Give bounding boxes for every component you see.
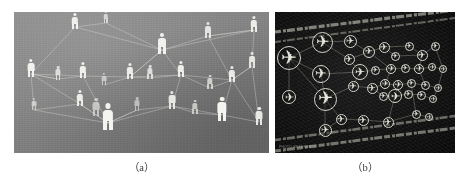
person-icon <box>158 33 167 54</box>
airplane-icon: ✈ <box>412 110 421 119</box>
person-icon <box>147 65 153 79</box>
airplane-icon: ✈ <box>344 35 357 48</box>
airplane-glyph: ✈ <box>314 88 337 111</box>
panel-a-edge <box>108 106 172 123</box>
airplane-icon: ✈ <box>386 64 396 74</box>
airplane-glyph: ✈ <box>412 110 421 119</box>
person-leg-left <box>251 26 253 32</box>
person-icon <box>255 107 263 126</box>
person-icon <box>178 61 185 78</box>
person-icon <box>102 103 113 130</box>
airplane-icon: ✈ <box>383 117 394 128</box>
airplane-icon: ✈ <box>379 92 388 101</box>
person-icon <box>217 97 227 122</box>
airplane-icon: ✈ <box>428 63 436 71</box>
person-leg-right <box>97 109 100 116</box>
airplane-icon: ✈ <box>429 95 437 103</box>
person-icon <box>127 63 134 80</box>
caption-b: （b） <box>275 159 455 174</box>
person-leg-left <box>207 84 209 89</box>
person-icon <box>72 13 79 30</box>
airplane-icon: ✈ <box>388 89 402 103</box>
airplane-glyph: ✈ <box>428 63 436 71</box>
airplane-icon: ✈ <box>379 42 390 53</box>
airplane-icon: ✈ <box>434 84 442 92</box>
person-leg-left <box>104 18 106 22</box>
person-icon <box>251 16 258 33</box>
person-head <box>179 61 182 64</box>
airplane-glyph: ✈ <box>379 92 388 101</box>
person-leg-left <box>56 75 58 80</box>
airplane-icon: ✈ <box>312 32 333 53</box>
airplane-icon: ✈ <box>363 46 375 58</box>
panel-a-edge <box>162 36 208 50</box>
person-icon <box>168 91 175 109</box>
person-head <box>220 97 225 102</box>
panel-a-edge <box>222 115 259 122</box>
person-leg-left <box>93 109 96 116</box>
person-leg-right <box>32 70 35 77</box>
airplane-glyph: ✈ <box>431 42 440 51</box>
person-leg-left <box>256 118 259 125</box>
person-leg-right <box>76 23 78 29</box>
person-leg-right <box>233 76 235 82</box>
airplane-icon: ✈ <box>282 90 296 104</box>
person-head <box>206 22 209 25</box>
airplane-glyph: ✈ <box>405 42 414 51</box>
person-leg-left <box>127 73 129 79</box>
person-leg-left <box>169 102 172 109</box>
person-icon <box>31 98 36 111</box>
person-leg-right <box>211 84 213 89</box>
airplane-glyph: ✈ <box>429 95 437 103</box>
person-head <box>149 65 152 68</box>
person-head <box>252 16 255 19</box>
caption-a: （a） <box>14 159 269 174</box>
airplane-glyph: ✈ <box>363 46 375 58</box>
person-head <box>160 33 164 37</box>
person-leg-left <box>135 106 137 111</box>
airplane-icon: ✈ <box>358 115 369 126</box>
person-leg-left <box>102 81 104 86</box>
person-icon <box>55 66 61 80</box>
airplane-icon: ✈ <box>391 52 400 61</box>
person-leg-right <box>196 109 198 114</box>
person-head <box>81 62 84 65</box>
person-leg-right <box>255 26 257 32</box>
person-leg-right <box>35 106 37 111</box>
airplane-glyph: ✈ <box>425 113 433 121</box>
panel-a-edge <box>75 23 106 27</box>
person-head <box>78 90 81 93</box>
person-head <box>128 63 131 66</box>
person-head <box>257 107 261 111</box>
person-leg-left <box>229 76 231 82</box>
airplane-icon: ✈ <box>401 64 410 73</box>
person-head <box>170 91 173 94</box>
airplane-icon: ✈ <box>407 79 416 88</box>
panel-a-edge <box>31 27 75 74</box>
panel-b-air-route-network: ✈✈✈✈✈✈✈✈✈✈✈✈✈✈✈✈✈✈✈✈✈✈✈✈✈✈✈✈✈✈✈✈✈✈✈✈✈✈ P… <box>275 12 455 153</box>
person-leg-right <box>131 73 133 79</box>
airplane-icon: ✈ <box>417 91 426 100</box>
person-leg-left <box>80 72 82 78</box>
airplane-icon: ✈ <box>336 114 347 125</box>
person-leg-right <box>84 72 86 78</box>
person-leg-right <box>151 74 153 79</box>
person-leg-left <box>28 70 31 77</box>
person-icon <box>80 62 87 79</box>
person-icon <box>134 97 140 111</box>
panel-a-edge <box>106 23 162 50</box>
airplane-glyph: ✈ <box>336 114 347 125</box>
airplane-icon: ✈ <box>277 46 301 70</box>
person-leg-left <box>205 32 207 38</box>
person-leg-left <box>158 47 161 55</box>
airplane-glyph: ✈ <box>417 50 428 61</box>
person-leg-right <box>209 32 211 38</box>
person-leg-left <box>218 112 221 121</box>
person-leg-right <box>109 120 113 130</box>
person-head <box>94 98 98 102</box>
airplane-glyph: ✈ <box>401 64 410 73</box>
person-leg-right <box>106 18 108 22</box>
airplane-icon: ✈ <box>344 54 355 65</box>
airplane-glyph: ✈ <box>312 65 330 83</box>
person-head <box>29 59 32 62</box>
